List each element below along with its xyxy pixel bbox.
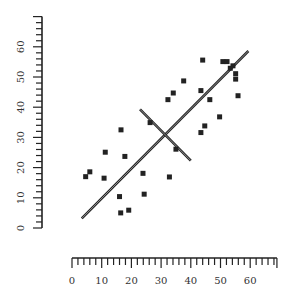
data-point	[87, 169, 92, 174]
y-tick-label: 0	[15, 225, 26, 231]
x-tick-label: 40	[184, 275, 197, 286]
data-point	[198, 88, 203, 93]
data-point	[142, 192, 147, 197]
data-point	[140, 171, 145, 176]
data-point	[230, 63, 235, 68]
data-point	[173, 147, 178, 152]
data-point	[165, 97, 170, 102]
x-tick-label: 30	[155, 275, 168, 286]
data-point	[202, 123, 207, 128]
data-point	[217, 114, 222, 119]
data-point	[126, 208, 131, 213]
data-point	[233, 71, 238, 76]
fit-lines	[82, 51, 249, 218]
data-point	[198, 130, 203, 135]
y-tick-label: 60	[15, 40, 26, 53]
data-point	[200, 58, 205, 63]
data-point	[236, 93, 241, 98]
x-tick-label: 20	[125, 275, 138, 286]
x-tick-label: 0	[69, 275, 75, 286]
y-axis: 0102030405060	[15, 17, 42, 232]
y-tick-label: 30	[15, 131, 26, 144]
data-point	[117, 194, 122, 199]
x-tick-label: 60	[244, 275, 257, 286]
data-point	[103, 150, 108, 155]
y-tick-label: 10	[15, 191, 26, 204]
y-tick-label: 20	[15, 161, 26, 174]
data-point	[119, 127, 124, 132]
data-point	[83, 174, 88, 179]
data-point	[148, 120, 153, 125]
data-point	[207, 97, 212, 102]
data-point	[167, 174, 172, 179]
data-point	[233, 77, 238, 82]
y-tick-label: 40	[15, 101, 26, 114]
data-point	[122, 154, 127, 159]
data-point	[225, 59, 230, 64]
y-tick-label: 50	[15, 71, 26, 84]
data-point	[118, 210, 123, 215]
data-point	[171, 91, 176, 96]
x-tick-label: 10	[95, 275, 108, 286]
data-point	[181, 78, 186, 83]
data-point	[102, 176, 107, 181]
x-tick-label: 50	[214, 275, 227, 286]
x-axis: 0102030405060	[69, 258, 277, 286]
scatter-chart: 0102030405060 0102030405060	[0, 0, 293, 301]
